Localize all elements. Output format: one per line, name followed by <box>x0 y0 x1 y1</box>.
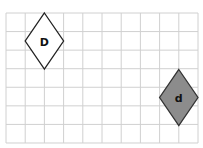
diamond-shape-d: d <box>160 70 198 126</box>
diamond-label-D: D <box>40 36 49 49</box>
diamond-label-d: d <box>175 92 183 105</box>
grid-diagram: D d <box>0 0 203 148</box>
diamond-shape-D: D <box>25 13 63 69</box>
